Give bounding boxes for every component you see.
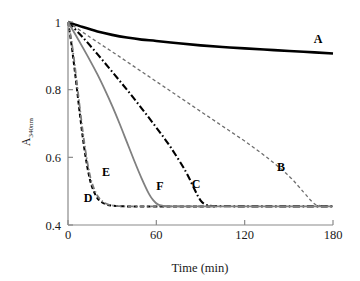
axis-labels-group: 0601201800.40.60.81 bbox=[45, 16, 342, 243]
series-labels-group: ABCDEF bbox=[84, 32, 323, 205]
y-tick-label: 0.6 bbox=[45, 151, 61, 165]
series-label-e: E bbox=[102, 165, 110, 179]
x-tick-label: 180 bbox=[324, 228, 343, 242]
series-label-d: D bbox=[84, 191, 93, 205]
x-tick-label: 60 bbox=[150, 228, 163, 242]
series-label-c: C bbox=[192, 177, 201, 191]
curve-a bbox=[68, 22, 333, 53]
series-label-b: B bbox=[277, 160, 285, 174]
line-chart: 0601201800.40.60.81 ABCDEF A340nm Time (… bbox=[0, 0, 360, 281]
chart-figure: 0601201800.40.60.81 ABCDEF A340nm Time (… bbox=[0, 0, 360, 281]
y-axis-title: A340nm bbox=[20, 118, 35, 146]
y-tick-label: 0.4 bbox=[45, 219, 61, 233]
y-tick-label: 0.8 bbox=[45, 83, 61, 97]
y-axis-title-subscript: 340nm bbox=[27, 118, 35, 138]
series-label-a: A bbox=[314, 32, 323, 46]
series-label-f: F bbox=[156, 179, 163, 193]
x-tick-label: 0 bbox=[65, 228, 71, 242]
x-axis-title: Time (min) bbox=[172, 261, 229, 275]
x-tick-label: 120 bbox=[235, 228, 254, 242]
y-tick-label: 1 bbox=[55, 16, 61, 30]
